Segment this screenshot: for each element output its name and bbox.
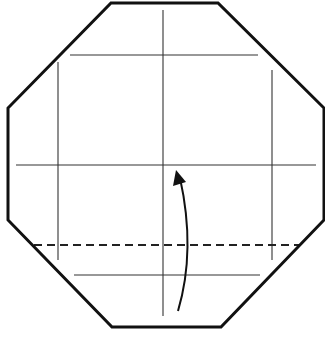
origami-diagram [0, 0, 325, 343]
fold-arrow-head [173, 170, 186, 186]
fold-arrow-icon [173, 170, 188, 311]
